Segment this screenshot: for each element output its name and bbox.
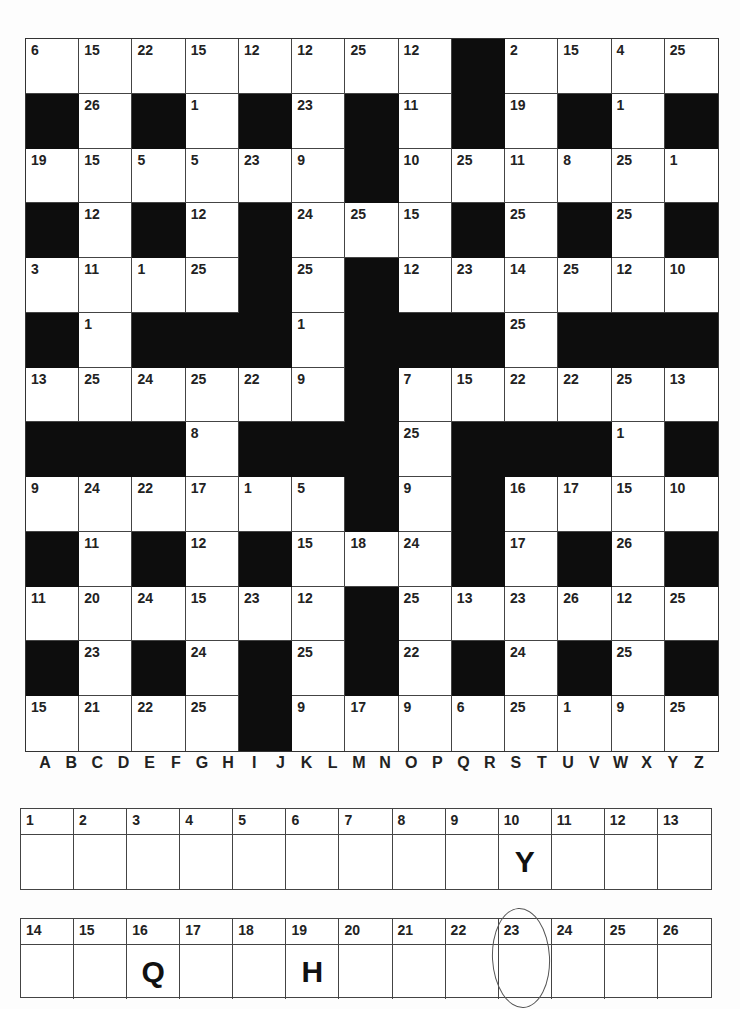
grid-cell[interactable]: 19 [505,94,558,149]
grid-cell[interactable]: 15 [79,39,132,94]
grid-cell[interactable]: 9 [292,368,345,423]
alphabet-letter[interactable]: R [477,754,503,772]
grid-cell[interactable]: 16 [505,477,558,532]
grid-cell[interactable]: 15 [558,39,611,94]
grid-cell[interactable]: 1 [239,477,292,532]
grid-cell[interactable]: 12 [612,258,665,313]
alphabet-letter[interactable]: B [58,754,84,772]
grid-cell[interactable]: 12 [239,39,292,94]
key-letter-slot[interactable] [552,835,605,889]
grid-cell[interactable]: 14 [505,258,558,313]
alphabet-letter[interactable]: T [529,754,555,772]
key-letter-slot[interactable] [233,835,286,889]
key-letter-slot[interactable] [552,945,605,999]
grid-cell[interactable]: 25 [505,313,558,368]
grid-cell[interactable]: 25 [345,39,398,94]
grid-cell[interactable]: 24 [292,203,345,258]
grid-cell[interactable]: 9 [292,149,345,204]
grid-cell[interactable]: 15 [26,696,79,751]
grid-cell[interactable]: 15 [612,477,665,532]
grid-cell[interactable]: 25 [665,587,718,642]
alphabet-letter[interactable]: G [189,754,215,772]
key-letter-slot[interactable]: Y [499,835,552,889]
key-letter-slot[interactable] [233,945,286,999]
grid-cell[interactable]: 22 [132,39,185,94]
grid-cell[interactable]: 10 [399,149,452,204]
grid-cell[interactable]: 11 [26,587,79,642]
grid-cell[interactable]: 22 [558,368,611,423]
key-letter-slot[interactable] [180,835,233,889]
grid-cell[interactable]: 19 [26,149,79,204]
key-letter-slot[interactable] [393,945,446,999]
grid-cell[interactable]: 25 [292,641,345,696]
grid-cell[interactable]: 25 [558,258,611,313]
grid-cell[interactable]: 25 [186,368,239,423]
grid-cell[interactable]: 1 [558,696,611,751]
grid-cell[interactable]: 22 [239,368,292,423]
grid-cell[interactable]: 5 [132,149,185,204]
grid-cell[interactable]: 26 [558,587,611,642]
grid-cell[interactable]: 23 [505,587,558,642]
grid-cell[interactable]: 12 [399,39,452,94]
alphabet-letter[interactable]: O [398,754,424,772]
grid-cell[interactable]: 23 [292,94,345,149]
key-letter-slot[interactable]: H [286,945,339,999]
grid-cell[interactable]: 11 [505,149,558,204]
grid-cell[interactable]: 1 [612,94,665,149]
grid-cell[interactable]: 11 [79,258,132,313]
grid-cell[interactable]: 1 [79,313,132,368]
grid-cell[interactable]: 22 [132,696,185,751]
alphabet-letter[interactable]: L [320,754,346,772]
grid-cell[interactable]: 15 [186,587,239,642]
grid-cell[interactable]: 25 [399,587,452,642]
grid-cell[interactable]: 12 [612,587,665,642]
grid-cell[interactable]: 12 [292,587,345,642]
grid-cell[interactable]: 23 [79,641,132,696]
grid-cell[interactable]: 1 [132,258,185,313]
grid-cell[interactable]: 10 [665,477,718,532]
key-letter-slot[interactable] [286,835,339,889]
grid-cell[interactable]: 20 [79,587,132,642]
grid-cell[interactable]: 25 [505,203,558,258]
alphabet-letter[interactable]: S [503,754,529,772]
key-letter-slot[interactable] [339,835,392,889]
grid-cell[interactable]: 12 [399,258,452,313]
grid-cell[interactable]: 23 [452,258,505,313]
grid-cell[interactable]: 17 [505,532,558,587]
grid-cell[interactable]: 25 [665,696,718,751]
alphabet-letter[interactable]: D [110,754,136,772]
grid-cell[interactable]: 4 [612,39,665,94]
key-letter-slot[interactable] [658,945,711,999]
key-letter-slot[interactable] [393,835,446,889]
grid-cell[interactable]: 1 [612,422,665,477]
grid-cell[interactable]: 5 [186,149,239,204]
alphabet-letter[interactable]: Z [686,754,712,772]
alphabet-letter[interactable]: W [607,754,633,772]
grid-cell[interactable]: 15 [292,532,345,587]
alphabet-letter[interactable]: I [241,754,267,772]
grid-cell[interactable]: 6 [26,39,79,94]
grid-cell[interactable]: 24 [132,587,185,642]
grid-cell[interactable]: 24 [505,641,558,696]
grid-cell[interactable]: 6 [452,696,505,751]
alphabet-letter[interactable]: H [215,754,241,772]
grid-cell[interactable]: 25 [399,422,452,477]
alphabet-letter[interactable]: F [163,754,189,772]
key-letter-slot[interactable] [605,835,658,889]
alphabet-letter[interactable]: M [346,754,372,772]
grid-cell[interactable]: 13 [26,368,79,423]
grid-cell[interactable]: 8 [558,149,611,204]
grid-cell[interactable]: 9 [399,696,452,751]
grid-cell[interactable]: 25 [292,258,345,313]
grid-cell[interactable]: 26 [79,94,132,149]
grid-cell[interactable]: 15 [452,368,505,423]
grid-cell[interactable]: 1 [292,313,345,368]
grid-cell[interactable]: 25 [665,39,718,94]
grid-cell[interactable]: 12 [186,203,239,258]
grid-cell[interactable]: 11 [79,532,132,587]
alphabet-letter[interactable]: P [424,754,450,772]
grid-cell[interactable]: 5 [292,477,345,532]
grid-cell[interactable]: 26 [612,532,665,587]
grid-cell[interactable]: 3 [26,258,79,313]
grid-cell[interactable]: 15 [186,39,239,94]
